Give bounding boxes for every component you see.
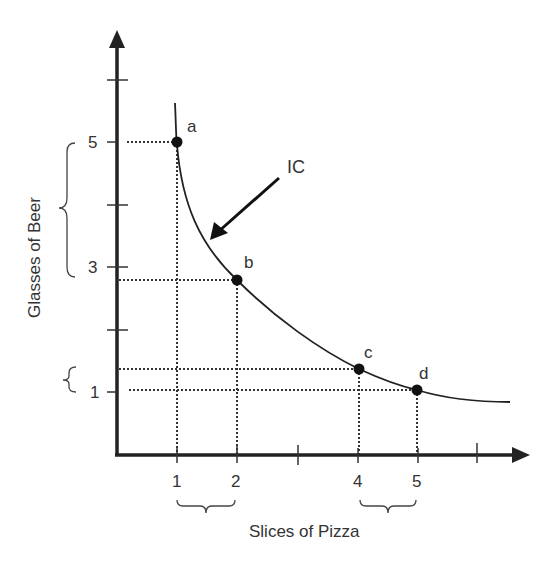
x-brace-pizza-1-2 [177,500,235,513]
point-b [232,275,243,286]
x-tick-label-2: 2 [231,473,240,490]
ic-arrow-icon [210,178,279,240]
x-tick-label-4: 4 [353,473,362,490]
x-axis-arrow-icon [512,447,530,463]
point-label-a: a [187,118,196,135]
x-axis-title: Slices of Pizza [249,523,360,540]
point-d [412,385,423,396]
x-tick-label-1: 1 [172,473,181,490]
axis-ticks [107,80,477,465]
y-axis-arrow-icon [109,30,125,48]
point-c [354,364,365,375]
ic-label: IC [287,158,305,176]
indifference-curve [175,103,510,402]
point-label-d: d [419,365,428,382]
y-tick-label-1: 1 [90,384,99,401]
point-label-b: b [244,254,253,271]
x-brace-pizza-4-5 [360,500,416,513]
x-tick-label-5: 5 [412,473,421,490]
axes [109,30,530,463]
y-brace-beer-5-3 [59,143,75,277]
y-tick-label-5: 5 [88,134,97,151]
y-brace-beer-c-d [63,367,76,392]
point-label-c: c [364,344,373,361]
point-a [172,137,183,148]
indifference-curve-chart [0,0,553,563]
y-axis-title: Glasses of Beer [25,198,45,318]
y-tick-label-3: 3 [88,259,97,276]
